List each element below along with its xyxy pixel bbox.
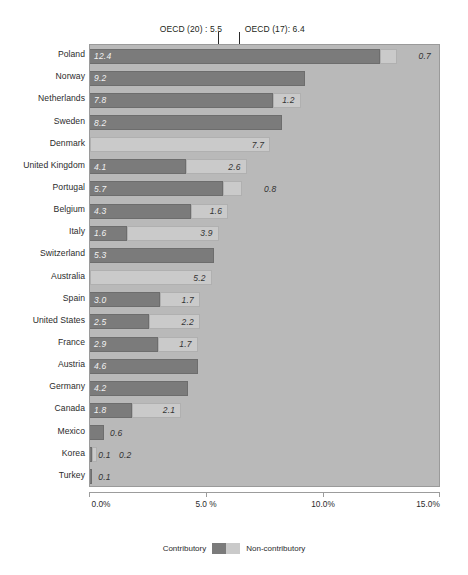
bar-value-label-contributory: 4.1: [94, 162, 106, 172]
plot-area: 12.40.79.27.81.28.27.74.12.65.70.84.31.6…: [89, 44, 440, 487]
category-label: United States: [3, 315, 85, 325]
bar-value-label-contributory: 2.5: [94, 317, 106, 327]
bar-segment-contributory: [90, 181, 223, 196]
bar-row: 1.82.1: [90, 403, 439, 418]
x-axis-tick-label: 15.0%: [416, 499, 440, 509]
x-axis-tick-label: 0.0%: [92, 499, 111, 509]
bar-segment-contributory: [90, 425, 104, 440]
category-label: Mexico: [3, 426, 85, 436]
chart-container: OECD (20) : 5.5OECD (17): 6.4 PolandNorw…: [0, 0, 468, 575]
category-label: Poland: [3, 49, 85, 59]
bar-row: 7.7: [90, 137, 439, 152]
bar-row: 2.52.2: [90, 314, 439, 329]
x-axis-tick: [439, 492, 440, 497]
x-axis: 0.0%5.0 %10.0%15.0%: [89, 492, 440, 516]
category-label: Canada: [3, 403, 85, 413]
bar-segment-non-contributory: [90, 137, 270, 152]
bar-segment-contributory: [90, 93, 273, 108]
category-axis-labels: PolandNorwayNetherlandsSwedenDenmarkUnit…: [0, 44, 85, 487]
bar-row: 5.3: [90, 248, 439, 263]
bar-value-label-non-contributory: 0.2: [119, 450, 131, 460]
x-axis-line: [89, 492, 440, 493]
bar-row: 0.6: [90, 425, 439, 440]
legend-label-contributory: Contributory: [163, 544, 207, 553]
bar-value-label-contributory: 8.2: [94, 118, 106, 128]
bar-value-label-non-contributory: 2.6: [228, 162, 240, 172]
oecd-annotation-label: OECD (17): 6.4: [245, 24, 305, 34]
bar-value-label-non-contributory: 3.9: [200, 228, 212, 238]
category-label: Spain: [3, 293, 85, 303]
category-label: Italy: [3, 226, 85, 236]
bar-value-label-contributory: 0.1: [98, 450, 110, 460]
bar-value-label-contributory: 7.8: [94, 95, 106, 105]
bar-value-label-non-contributory: 1.7: [179, 339, 191, 349]
bar-row: 4.6: [90, 359, 439, 374]
bar-segment-non-contributory: [223, 181, 242, 196]
bar-value-label-non-contributory: 1.6: [210, 206, 222, 216]
bar-value-label-non-contributory: 0.7: [419, 51, 431, 61]
bar-row: 4.31.6: [90, 204, 439, 219]
bar-segment-non-contributory: [160, 292, 200, 307]
bar-row: 0.1: [90, 469, 439, 484]
bar-row: 4.2: [90, 381, 439, 396]
bar-value-label-non-contributory: 0.8: [264, 184, 276, 194]
category-label: Germany: [3, 381, 85, 391]
category-label: Korea: [3, 448, 85, 458]
bar-value-label-contributory: 1.8: [94, 405, 106, 415]
bar-segment-contributory: [90, 469, 92, 484]
bar-value-label-contributory: 4.3: [94, 206, 106, 216]
bar-row: 8.2: [90, 115, 439, 130]
category-label: Austria: [3, 359, 85, 369]
oecd-annotation-label: OECD (20) : 5.5: [160, 24, 222, 34]
legend-swatch-contributory: [212, 543, 226, 554]
bar-value-label-contributory: 0.1: [98, 472, 110, 482]
bar-value-label-non-contributory: 5.2: [193, 273, 205, 283]
legend-swatch-non-contributory: [226, 543, 240, 554]
category-label: Switzerland: [3, 248, 85, 258]
bar-segment-non-contributory: [158, 337, 198, 352]
bar-value-label-non-contributory: 2.1: [163, 405, 175, 415]
bar-segment-contributory: [90, 71, 305, 86]
category-label: Belgium: [3, 204, 85, 214]
bar-value-label-contributory: 5.7: [94, 184, 106, 194]
bar-row: 9.2: [90, 71, 439, 86]
bar-value-label-non-contributory: 1.2: [282, 95, 294, 105]
bar-value-label-contributory: 4.6: [94, 361, 106, 371]
bar-value-label-contributory: 5.3: [94, 250, 106, 260]
bar-segment-non-contributory: [92, 447, 97, 462]
bar-segment-contributory: [90, 248, 214, 263]
legend-label-non-contributory: Non-contributory: [246, 544, 305, 553]
bar-row: 5.2: [90, 270, 439, 285]
x-axis-tick-label: 5.0 %: [195, 499, 216, 509]
category-label: Netherlands: [3, 93, 85, 103]
bar-value-label-non-contributory: 7.7: [252, 140, 264, 150]
bar-row: 7.81.2: [90, 93, 439, 108]
bar-row: 5.70.8: [90, 181, 439, 196]
bar-row: 2.91.7: [90, 337, 439, 352]
x-axis-tick: [323, 492, 324, 497]
bar-row: 1.63.9: [90, 226, 439, 241]
bar-value-label-contributory: 2.9: [94, 339, 106, 349]
category-label: Sweden: [3, 116, 85, 126]
bar-row: 12.40.7: [90, 49, 439, 64]
bar-value-label-non-contributory: 1.7: [182, 295, 194, 305]
category-label: United Kingdom: [3, 160, 85, 170]
bar-value-label-contributory: 4.2: [94, 383, 106, 393]
bar-value-label-contributory: 0.6: [110, 428, 122, 438]
bar-value-label-contributory: 3.0: [94, 295, 106, 305]
bar-value-label-contributory: 9.2: [94, 73, 106, 83]
x-axis-tick: [89, 492, 90, 497]
category-label: Portugal: [3, 182, 85, 192]
bar-row: 3.01.7: [90, 292, 439, 307]
category-label: Denmark: [3, 138, 85, 148]
category-label: Australia: [3, 271, 85, 281]
x-axis-tick-label: 10.0%: [311, 499, 335, 509]
bar-row: 0.10.2: [90, 447, 439, 462]
bar-value-label-contributory: 12.4: [94, 51, 111, 61]
x-axis-tick: [206, 492, 207, 497]
category-label: France: [3, 337, 85, 347]
bar-value-label-contributory: 1.6: [94, 228, 106, 238]
bar-value-label-non-contributory: 2.2: [182, 317, 194, 327]
chart-legend: Contributory Non-contributory: [0, 538, 468, 558]
category-label: Turkey: [3, 470, 85, 480]
